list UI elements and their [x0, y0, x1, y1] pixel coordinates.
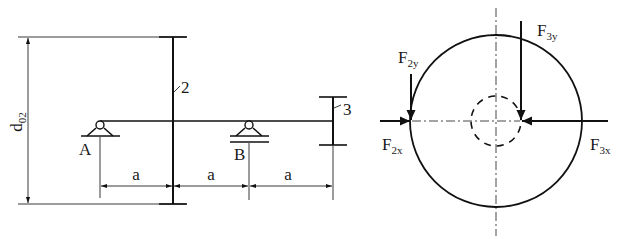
support-b-label: B	[234, 145, 245, 164]
support-a: A	[79, 121, 120, 159]
shaft-side-view: d02 2 3 A	[7, 37, 352, 204]
force-f2x: F2x	[380, 121, 410, 156]
shaft-end-view: F2y F2x F3y F3x	[380, 8, 611, 236]
dimension-a-2: a	[207, 165, 215, 184]
dimension-a-3: a	[284, 165, 292, 184]
dimension-a-1: a	[132, 165, 140, 184]
gear-2-label: 2	[181, 78, 190, 97]
force-f2y: F2y	[398, 48, 419, 120]
support-a-label: A	[79, 140, 92, 159]
svg-text:d02: d02	[7, 112, 28, 132]
gear-3-label: 3	[343, 100, 352, 119]
force-f3x-label: F3x	[590, 135, 611, 156]
span-dimensions: a a a	[100, 137, 333, 200]
force-f2x-label: F2x	[382, 135, 403, 156]
force-f3y-label: F3y	[537, 21, 558, 42]
force-f2y-label: F2y	[398, 48, 419, 69]
diameter-subscript: 02	[16, 112, 28, 123]
force-f3x: F3x	[522, 121, 611, 156]
support-b: B	[230, 121, 269, 164]
force-f3y: F3y	[521, 21, 558, 120]
shaft-force-diagram: d02 2 3 A	[0, 0, 622, 239]
